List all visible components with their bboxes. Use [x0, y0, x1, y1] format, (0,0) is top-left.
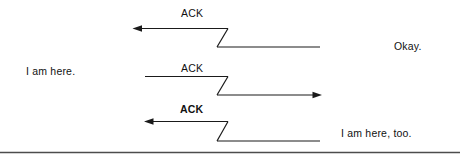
row-3-signal	[144, 118, 320, 141]
row-1-annotation: Okay.	[394, 40, 422, 52]
row-3-annotation: I am here, too.	[341, 127, 412, 139]
row-1-zigzag-diagonal	[217, 29, 228, 48]
row-2-right-arrowhead	[313, 92, 323, 99]
row-3-zigzag-diagonal	[217, 122, 228, 142]
row-1-signal	[133, 25, 321, 47]
row-1-ack-label: ACK	[181, 7, 203, 19]
timing-diagram: ACK ACK ACK Okay. I am here. I am here, …	[0, 0, 460, 161]
row-1-left-arrowhead	[133, 25, 143, 32]
row-2-signal	[145, 77, 322, 99]
row-2-ack-label: ACK	[181, 62, 203, 74]
row-2-annotation: I am here.	[26, 65, 75, 77]
row-2-zigzag-diagonal	[217, 77, 228, 96]
row-3-ack-label: ACK	[180, 103, 203, 115]
row-3-left-arrowhead	[144, 118, 154, 125]
